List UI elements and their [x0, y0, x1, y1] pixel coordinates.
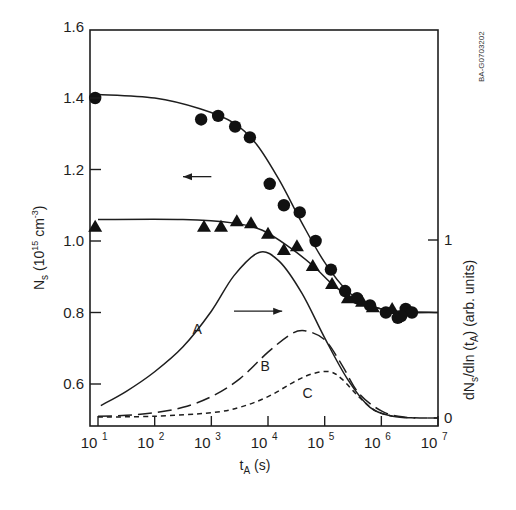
y-axis-label: Ns (1015 cm-3) [30, 205, 50, 290]
y-tick-label: 1.4 [63, 89, 84, 106]
triangle-marker [230, 214, 244, 226]
chart: 1011021031041051061070.60.81.01.21.41.60… [0, 0, 516, 510]
y-tick-label: 0.8 [63, 304, 84, 321]
arrow-right-icon [273, 308, 282, 315]
circle-marker [195, 113, 207, 125]
y2-tick-label: 0 [444, 409, 452, 426]
y-tick-label: 1.2 [63, 161, 84, 178]
circle-marker [309, 235, 321, 247]
x-tick-exponent: 5 [329, 431, 335, 442]
x-tick-exponent: 1 [102, 431, 108, 442]
curve-a [101, 252, 416, 418]
y-tick-label: 1.0 [63, 232, 84, 249]
x-tick-label: 10 [81, 434, 98, 451]
triangle-marker [277, 243, 291, 255]
curve-label-b: B [261, 358, 270, 374]
triangle-marker [244, 216, 258, 228]
x-tick-exponent: 4 [272, 431, 278, 442]
curve-circle-fit [98, 94, 438, 312]
x-tick-label: 10 [364, 434, 381, 451]
circle-marker [406, 306, 418, 318]
x-tick-exponent: 7 [442, 431, 448, 442]
circle-marker [294, 206, 306, 218]
circle-marker [212, 110, 224, 122]
y2-tick-label: 1 [444, 231, 452, 248]
circle-marker [244, 131, 256, 143]
y2-axis-label: dNs/dln (tA) (arb. units) [461, 260, 480, 400]
triangle-marker [197, 220, 211, 232]
circle-marker [278, 199, 290, 211]
x-tick-label: 10 [137, 434, 154, 451]
x-tick-label: 10 [194, 434, 211, 451]
y-tick-label: 0.6 [63, 375, 84, 392]
x-tick-exponent: 3 [215, 431, 221, 442]
curve-label-a: A [193, 321, 203, 337]
x-tick-exponent: 6 [385, 431, 391, 442]
circle-marker [229, 120, 241, 132]
circle-marker [325, 263, 337, 275]
x-tick-exponent: 2 [159, 431, 165, 442]
x-tick-label: 10 [421, 434, 438, 451]
axis-ticks [90, 98, 438, 426]
x-tick-label: 10 [251, 434, 268, 451]
arrow-left-icon [183, 173, 192, 180]
circle-marker [264, 178, 276, 190]
y-tick-label: 1.6 [63, 18, 84, 35]
x-axis-label: tA (s) [240, 457, 271, 476]
curve-label-c: C [303, 385, 313, 401]
triangle-marker [290, 239, 304, 251]
curve-c [98, 371, 393, 417]
triangle-marker [261, 227, 275, 239]
figure-id-watermark: BA-G0703202 [477, 31, 486, 82]
data-markers [88, 92, 418, 324]
x-tick-label: 10 [307, 434, 324, 451]
axis-labels: 1011021031041051061070.60.81.01.21.41.60… [30, 18, 486, 477]
